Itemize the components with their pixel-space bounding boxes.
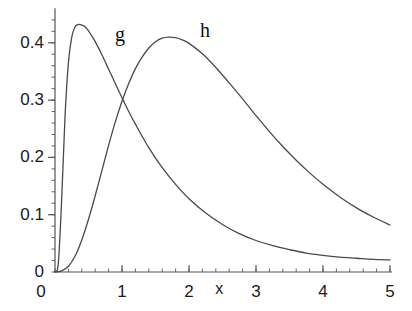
x-tick-label: 1 bbox=[117, 282, 126, 302]
axes bbox=[48, 8, 392, 272]
plot-area bbox=[0, 0, 412, 311]
x-tick-label: 4 bbox=[318, 282, 327, 302]
curve-g bbox=[55, 24, 390, 272]
y-tick-label: 0 bbox=[0, 262, 44, 282]
x-axis-title: x bbox=[215, 280, 223, 298]
chart-figure: 00.10.20.30.4 012345 gh x bbox=[0, 0, 412, 311]
curve-h bbox=[55, 37, 390, 272]
curve-label-g: g bbox=[115, 23, 125, 46]
x-tick-label: 3 bbox=[251, 282, 260, 302]
x-tick-label: 2 bbox=[184, 282, 193, 302]
y-tick-label: 0.1 bbox=[0, 205, 44, 225]
x-tick-label: 5 bbox=[385, 282, 394, 302]
y-tick-label: 0.4 bbox=[0, 33, 44, 53]
curve-label-h: h bbox=[200, 18, 210, 41]
y-tick-label: 0.3 bbox=[0, 90, 44, 110]
curves bbox=[55, 24, 390, 272]
y-tick-label: 0.2 bbox=[0, 147, 44, 167]
x-tick-label: 0 bbox=[36, 282, 45, 302]
